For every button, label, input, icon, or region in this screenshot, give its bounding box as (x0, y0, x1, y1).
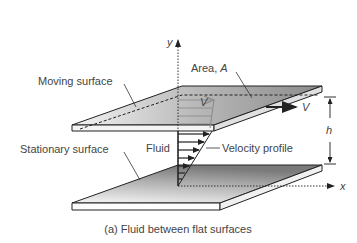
label-velocity-profile: Velocity profile (222, 142, 293, 154)
label-area: Area, A (191, 62, 228, 74)
label-stationary-surface: Stationary surface (20, 143, 109, 155)
moving-plate (72, 86, 322, 131)
label-x-axis: x (339, 180, 346, 192)
label-gap-h: h (326, 124, 332, 136)
fluid-diagram: Moving surface Area, A V V h Stationary … (0, 0, 357, 243)
label-y-axis: y (166, 36, 174, 48)
label-moving-surface: Moving surface (38, 75, 113, 87)
figure-caption: (a) Fluid between flat surfaces (104, 223, 252, 235)
label-fluid: Fluid (146, 142, 170, 154)
stationary-plate (72, 165, 322, 210)
label-velocity: V (302, 101, 311, 113)
